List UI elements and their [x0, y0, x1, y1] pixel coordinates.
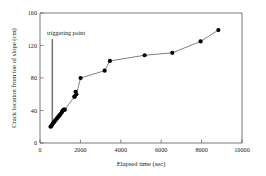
data-series-points: [48, 28, 220, 129]
data-point: [74, 92, 78, 96]
chart-plot-area: 0 40 80 120 160 0 2000 4000 6000 8000 10…: [0, 0, 266, 176]
data-point: [103, 69, 107, 73]
y-tick-label-40: 40: [31, 107, 37, 114]
y-tick-label-160: 160: [28, 9, 37, 16]
data-point: [216, 28, 220, 32]
y-axis-title: Crack location from toe of slope (cm): [10, 28, 18, 128]
chart-figure: 0 40 80 120 160 0 2000 4000 6000 8000 10…: [0, 0, 266, 176]
data-point: [198, 39, 202, 43]
x-tick-label-8000: 8000: [195, 146, 207, 153]
data-point: [63, 108, 67, 112]
data-point: [170, 51, 174, 55]
x-tick-label-10000: 10000: [234, 146, 249, 153]
data-point: [108, 59, 112, 63]
x-axis-ticks: [40, 140, 242, 144]
y-tick-label-120: 120: [28, 42, 37, 49]
y-axis-tick-labels: 0 40 80 120 160: [28, 9, 37, 146]
triggering-point-label: triggering point: [47, 30, 85, 36]
x-tick-label-6000: 6000: [155, 146, 167, 153]
data-series-group: [48, 28, 220, 129]
y-tick-label-80: 80: [31, 74, 37, 81]
y-axis-ticks: [40, 13, 44, 143]
x-tick-label-2000: 2000: [74, 146, 86, 153]
data-point: [143, 53, 147, 57]
x-axis-title: Elapsed time (sec): [117, 160, 166, 168]
x-tick-label-0: 0: [38, 146, 41, 153]
data-point: [79, 76, 83, 80]
data-series-line: [51, 30, 219, 127]
x-axis-tick-labels: 0 2000 4000 6000 8000 10000: [38, 146, 249, 153]
x-tick-label-4000: 4000: [115, 146, 127, 153]
y-tick-label-0: 0: [34, 139, 37, 146]
